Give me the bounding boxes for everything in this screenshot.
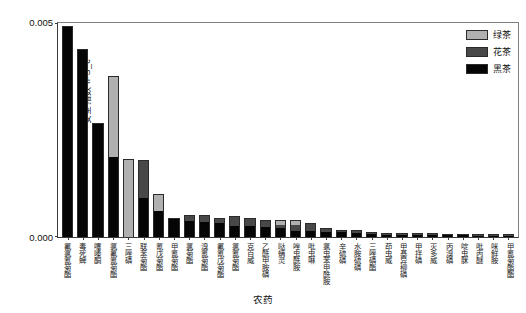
x-axis-tick-label: 氯虫苯甲酰胺 [322,242,330,284]
bar[interactable] [290,220,301,237]
bar-slot[interactable] [410,23,425,237]
bar-slot[interactable] [273,23,288,237]
x-axis-tick-label-slot: 氟氰戊菊酯 [212,240,227,290]
bar-segment [230,217,239,226]
bar[interactable] [92,123,103,237]
bar-segment [78,50,87,237]
legend-item[interactable]: 绿茶 [466,28,511,41]
bar[interactable] [336,230,347,237]
x-axis-tick-label: 吡虫啉 [307,242,315,263]
bar-slot[interactable] [303,23,318,237]
x-axis-tick-label: 甲基异柳磷 [399,242,407,277]
bar-slot[interactable] [334,23,349,237]
bar-slot[interactable] [212,23,227,237]
bar-slot[interactable] [394,23,409,237]
x-axis-tick-label: 毒死蜱 [78,242,86,263]
bar-slot[interactable] [242,23,257,237]
x-axis-tick-label-slot: 吡虫啉 [303,240,318,290]
bar-segment [230,226,239,237]
x-axis-tick-label-slot: 氰戊菊酯 [151,240,166,290]
legend-swatch [466,47,488,57]
x-axis-tick-label-slot: 吡丙醚 [471,240,486,290]
bar-segment [109,77,118,157]
x-axis-tick-label-slot: 氯菊酯 [181,240,196,290]
bar[interactable] [214,218,225,237]
plot-area: 安全指数 IFS_c 0.005 0.000 [57,22,519,238]
x-axis-tick-label: 唑虫酰胺 [292,242,300,270]
bar[interactable] [260,220,271,237]
x-axis-tick-label: 辛硫磷 [338,242,346,263]
x-axis-tick-label-slot: 甲基异柳磷 [395,240,410,290]
bar[interactable] [184,215,195,237]
bar[interactable] [108,76,119,237]
bar-slot[interactable] [121,23,136,237]
x-axis-tick-label: 乙酰甲胺磷 [261,242,269,277]
bar-segment [276,228,285,237]
x-axis-tick-label-slot: 毒死蜱 [74,240,89,290]
x-axis-tick-label: 甲拌磷 [414,242,422,263]
bar-slot[interactable] [318,23,333,237]
x-axis-tick-label: 噻嗪酮 [93,242,101,263]
bar-slot[interactable] [75,23,90,237]
chart-figure: 安全指数 IFS_c 0.005 0.000 氟氯氰菊酯毒死蜱噻嗪酮氯氟氰菊酯三… [0,0,526,313]
bar[interactable] [77,49,88,237]
bar-segment [245,219,254,226]
x-axis-tick-label-slot: 乙酰甲胺磷 [257,240,272,290]
x-axis-tick-label-slot: 噻嗪酮 [90,240,105,290]
bar-slot[interactable] [166,23,181,237]
bar-segment [215,223,224,237]
x-axis-tick-label-slot: 联苯菊酯 [135,240,150,290]
legend-swatch [466,64,488,74]
bar-slot[interactable] [364,23,379,237]
bar-group [58,23,518,237]
bar[interactable] [305,223,316,237]
bar[interactable] [320,228,331,237]
x-axis-tick-label-slot: 水胺硫磷 [349,240,364,290]
bar[interactable] [244,218,255,237]
bar-segment [124,160,133,237]
x-axis-tick-label-slot: 克百威 [242,240,257,290]
bar[interactable] [168,218,179,237]
bar-segment [139,198,148,237]
bar-slot[interactable] [182,23,197,237]
bar-slot[interactable] [227,23,242,237]
bar[interactable] [138,160,149,237]
bar[interactable] [199,215,210,237]
bar-slot[interactable] [90,23,105,237]
bar-slot[interactable] [288,23,303,237]
bar-segment [169,219,178,237]
bar-slot[interactable] [60,23,75,237]
bar[interactable] [62,26,73,237]
bar[interactable] [229,216,240,237]
x-axis-tick-label: 水胺硫磷 [353,242,361,270]
legend-item[interactable]: 黑茶 [466,62,511,75]
bar-slot[interactable] [151,23,166,237]
bar-segment [245,226,254,237]
bar-slot[interactable] [379,23,394,237]
bar[interactable] [153,194,164,237]
bar[interactable] [351,230,362,237]
bar-slot[interactable] [106,23,121,237]
bar[interactable] [275,220,286,237]
bar-slot[interactable] [258,23,273,237]
x-axis-tick-label: 氟氯氰菊酯 [63,242,71,277]
bar[interactable] [123,159,134,237]
x-axis-tick-label-slot: 茚虫威 [380,240,395,290]
bar-slot[interactable] [349,23,364,237]
bar-segment [63,27,72,237]
legend: 绿茶花茶黑茶 [463,26,514,77]
bar-segment [261,227,270,237]
x-axis-tick-label: 吡丙醚 [475,242,483,263]
y-tick-label-max: 0.005 [12,17,58,28]
bar-slot[interactable] [440,23,455,237]
x-axis-tick-label: 氯菊酯 [185,242,193,263]
legend-label: 绿茶 [493,28,511,41]
x-axis-tick-label: 啶虫脒 [460,242,468,263]
bar-slot[interactable] [136,23,151,237]
legend-item[interactable]: 花茶 [466,45,511,58]
x-axis-tick-label-slot: 辛硫磷 [334,240,349,290]
bar-slot[interactable] [425,23,440,237]
x-axis-tick-label-slot: 氯氰菊酯 [227,240,242,290]
x-axis-tick-label-slot: 哒螨灵 [273,240,288,290]
bar-slot[interactable] [197,23,212,237]
